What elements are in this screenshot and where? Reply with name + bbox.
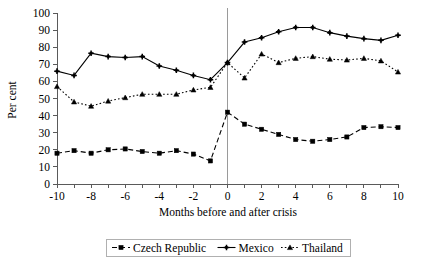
data-point-marker bbox=[225, 110, 229, 114]
x-axis-title: Months before and after crisis bbox=[159, 206, 297, 218]
data-point-marker bbox=[242, 122, 246, 126]
data-point-marker bbox=[56, 70, 58, 72]
data-point-marker bbox=[294, 137, 298, 141]
data-point-marker bbox=[345, 135, 349, 139]
x-tick-label: -6 bbox=[120, 190, 130, 202]
x-tick-label: -8 bbox=[86, 190, 96, 202]
x-tick-label: 2 bbox=[259, 190, 265, 202]
legend-label: Thailand bbox=[302, 242, 343, 254]
y-tick-label: 60 bbox=[39, 75, 51, 87]
legend-label: Mexico bbox=[239, 242, 274, 254]
x-tick-label: -10 bbox=[49, 190, 65, 202]
y-tick-label: 10 bbox=[39, 161, 51, 173]
x-tick-label: -4 bbox=[155, 190, 165, 202]
legend-label: Czech Republic bbox=[133, 242, 206, 255]
data-point-marker bbox=[225, 246, 227, 248]
data-point-marker bbox=[312, 26, 314, 28]
data-point-marker bbox=[191, 152, 195, 156]
data-point-marker bbox=[124, 56, 126, 58]
x-tick-label: 10 bbox=[392, 190, 404, 202]
data-point-marker bbox=[397, 34, 399, 36]
data-point-marker bbox=[380, 39, 382, 41]
data-point-marker bbox=[175, 69, 177, 71]
data-point-marker bbox=[278, 31, 280, 33]
data-point-marker bbox=[328, 137, 332, 141]
y-axis-title: Per cent bbox=[6, 81, 18, 119]
data-point-marker bbox=[72, 149, 76, 153]
data-point-marker bbox=[141, 56, 143, 58]
data-point-marker bbox=[140, 149, 144, 153]
data-point-marker bbox=[208, 159, 212, 163]
y-tick-label: 30 bbox=[39, 127, 51, 139]
x-tick-label: 4 bbox=[293, 190, 299, 202]
data-point-marker bbox=[329, 32, 331, 34]
data-point-marker bbox=[261, 37, 263, 39]
y-tick-label: 70 bbox=[39, 58, 51, 70]
x-tick-label: 6 bbox=[327, 190, 333, 202]
line-chart: 0102030405060708090100 -10-8-6-4-2024681… bbox=[0, 0, 423, 269]
data-point-marker bbox=[396, 125, 400, 129]
chart-container: 0102030405060708090100 -10-8-6-4-2024681… bbox=[0, 0, 423, 269]
chart-legend: Czech RepublicMexicoThailand bbox=[106, 239, 350, 256]
data-point-marker bbox=[311, 139, 315, 143]
data-point-marker bbox=[106, 148, 110, 152]
y-tick-label: 40 bbox=[39, 110, 51, 122]
x-tick-label: 0 bbox=[225, 190, 231, 202]
data-point-marker bbox=[107, 56, 109, 58]
data-point-marker bbox=[73, 74, 75, 76]
x-tick-label: 8 bbox=[361, 190, 367, 202]
data-point-marker bbox=[55, 151, 59, 155]
data-point-marker bbox=[157, 151, 161, 155]
data-point-marker bbox=[277, 132, 281, 136]
x-tick-label: -2 bbox=[189, 190, 199, 202]
data-point-marker bbox=[90, 52, 92, 54]
data-point-marker bbox=[158, 65, 160, 67]
data-point-marker bbox=[209, 79, 211, 81]
data-point-marker bbox=[260, 127, 264, 131]
y-tick-label: 0 bbox=[44, 178, 50, 190]
data-point-marker bbox=[174, 149, 178, 153]
y-tick-label: 20 bbox=[39, 144, 51, 156]
data-point-marker bbox=[295, 26, 297, 28]
data-point-marker bbox=[89, 151, 93, 155]
plot-background bbox=[0, 0, 423, 269]
data-point-marker bbox=[362, 125, 366, 129]
y-tick-label: 100 bbox=[33, 7, 51, 19]
data-point-marker bbox=[123, 147, 127, 151]
y-tick-label: 80 bbox=[39, 41, 51, 53]
data-point-marker bbox=[192, 74, 194, 76]
data-point-marker bbox=[363, 38, 365, 40]
data-point-marker bbox=[119, 245, 123, 249]
data-point-marker bbox=[379, 125, 383, 129]
data-point-marker bbox=[243, 41, 245, 43]
y-tick-label: 90 bbox=[39, 24, 51, 36]
y-tick-label: 50 bbox=[39, 93, 51, 105]
data-point-marker bbox=[346, 35, 348, 37]
